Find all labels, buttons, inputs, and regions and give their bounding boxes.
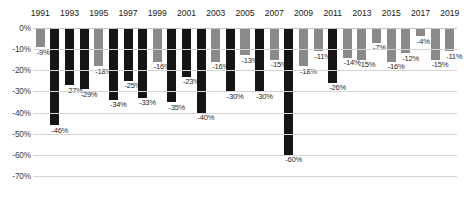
bar-fill xyxy=(65,28,74,85)
x-axis-tick-label: 2001 xyxy=(177,8,196,18)
x-axis-tick-label: 1997 xyxy=(118,8,137,18)
bar-2018 xyxy=(431,28,440,60)
bar-value-label: -15% xyxy=(432,60,449,69)
gridline xyxy=(33,91,457,92)
bar-2013 xyxy=(357,28,366,60)
x-axis-tick-label: 1993 xyxy=(60,8,79,18)
bar-1998 xyxy=(138,28,147,98)
bar-1994 xyxy=(80,28,89,89)
bar-value-label: -15% xyxy=(358,60,375,69)
bar-fill xyxy=(240,28,249,55)
bar-fill xyxy=(255,28,264,91)
x-axis-tick-label: 1991 xyxy=(31,8,50,18)
bar-fill xyxy=(299,28,308,66)
bar-value-label: -40% xyxy=(198,113,215,122)
bar-2010 xyxy=(314,28,323,51)
x-axis-tick-label: 2017 xyxy=(411,8,430,18)
bar-fill xyxy=(94,28,103,66)
y-axis: 0%-10%-20%-30%-40%-50%-60%-70% xyxy=(0,28,31,176)
bar-value-label: -11% xyxy=(446,52,462,61)
bar-fill xyxy=(36,28,45,47)
bar-value-label: -30% xyxy=(227,92,244,101)
bar-2011 xyxy=(328,28,337,83)
bar-value-label: -35% xyxy=(168,103,185,112)
bar-fill xyxy=(387,28,396,62)
bar-2006 xyxy=(255,28,264,91)
x-axis-tick-label: 1995 xyxy=(89,8,108,18)
bar-fill xyxy=(109,28,118,100)
bar-value-label: -30% xyxy=(256,92,273,101)
x-axis-tick-label: 2009 xyxy=(294,8,313,18)
bar-2015 xyxy=(387,28,396,62)
bar-2004 xyxy=(226,28,235,91)
gridline xyxy=(33,155,457,156)
bar-fill xyxy=(153,28,162,62)
bar-fill xyxy=(328,28,337,83)
y-axis-tick-label: -30% xyxy=(1,87,31,96)
x-axis-tick-label: 2019 xyxy=(440,8,459,18)
bar-1992 xyxy=(50,28,59,125)
gridline xyxy=(33,49,457,50)
x-axis-tick-label: 2011 xyxy=(323,8,341,18)
x-axis-tick-label: 2013 xyxy=(352,8,371,18)
bar-fill xyxy=(211,28,220,62)
bar-value-label: -7% xyxy=(373,43,386,52)
bar-fill xyxy=(445,28,454,51)
x-axis-tick-label: 1999 xyxy=(148,8,167,18)
x-axis-tick-label: 2015 xyxy=(382,8,401,18)
bar-fill xyxy=(80,28,89,89)
bar-fill xyxy=(270,28,279,60)
gridline xyxy=(33,113,457,114)
bar-2017 xyxy=(416,28,425,36)
bar-1991 xyxy=(36,28,45,47)
bar-2007 xyxy=(270,28,279,60)
x-axis-tick-label: 2003 xyxy=(206,8,225,18)
bar-value-label: -33% xyxy=(139,98,156,107)
bar-fill xyxy=(50,28,59,125)
x-axis-tick-label: 2005 xyxy=(235,8,254,18)
bar-value-label: -34% xyxy=(110,100,127,109)
x-axis-tick-label: 2007 xyxy=(265,8,284,18)
bar-value-label: -60% xyxy=(285,155,302,164)
y-axis-tick-label: 0% xyxy=(1,24,31,33)
bar-fill xyxy=(314,28,323,51)
bar-fill xyxy=(138,28,147,98)
x-axis: 1991199319951997199920012003200520072009… xyxy=(33,8,457,24)
bar-1996 xyxy=(109,28,118,100)
bar-2019 xyxy=(445,28,454,51)
bar-2014 xyxy=(372,28,381,43)
bar-fill xyxy=(431,28,440,60)
gridline xyxy=(33,134,457,135)
bar-chart: 0%-10%-20%-30%-40%-50%-60%-70% 199119931… xyxy=(0,0,466,197)
bar-1997 xyxy=(124,28,133,81)
y-axis-tick-label: -70% xyxy=(1,172,31,181)
bar-fill xyxy=(416,28,425,36)
bar-1999 xyxy=(153,28,162,62)
bar-value-label: -4% xyxy=(417,37,430,46)
gridline xyxy=(33,70,457,71)
bar-1993 xyxy=(65,28,74,85)
bar-fill xyxy=(357,28,366,60)
y-axis-tick-label: -60% xyxy=(1,150,31,159)
bar-fill xyxy=(372,28,381,43)
bar-fill xyxy=(226,28,235,91)
y-axis-tick-label: -20% xyxy=(1,66,31,75)
bar-value-label: -12% xyxy=(402,54,419,63)
bar-2009 xyxy=(299,28,308,66)
plot-area: -9%-46%-27%-29%-18%-34%-25%-33%-16%-35%-… xyxy=(33,28,457,176)
bar-fill xyxy=(124,28,133,81)
y-axis-tick-label: -40% xyxy=(1,108,31,117)
bar-2012 xyxy=(343,28,352,58)
y-axis-tick-label: -50% xyxy=(1,129,31,138)
gridline xyxy=(33,176,457,177)
y-axis-tick-label: -10% xyxy=(1,45,31,54)
bar-2003 xyxy=(211,28,220,62)
bar-2005 xyxy=(240,28,249,55)
bar-series: -9%-46%-27%-29%-18%-34%-25%-33%-16%-35%-… xyxy=(33,28,457,176)
bar-fill xyxy=(343,28,352,58)
bar-1995 xyxy=(94,28,103,66)
gridline xyxy=(33,28,457,29)
